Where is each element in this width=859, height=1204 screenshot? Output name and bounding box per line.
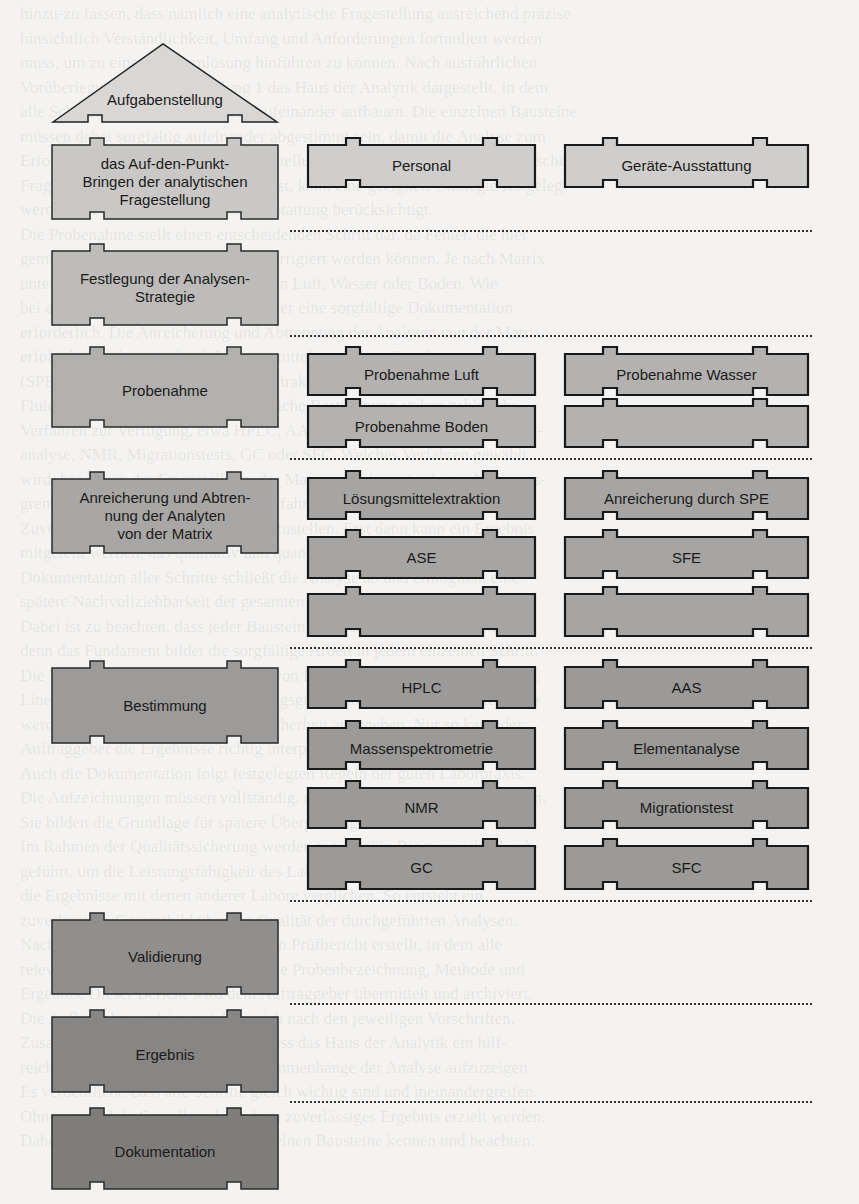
block-label: AAS xyxy=(565,667,808,708)
block-probenahme-boden: Probenahme Boden xyxy=(308,406,535,447)
block-label: Probenahme Boden xyxy=(308,406,535,447)
block-personal: Personal xyxy=(308,145,535,187)
block-enrichment-empty-2 xyxy=(565,594,808,636)
block-label: Validierung xyxy=(52,920,278,994)
block-enrichment-empty-1 xyxy=(308,594,535,636)
block-label: Bestimmung xyxy=(52,668,278,743)
block-ergebnis: Ergebnis xyxy=(52,1017,278,1092)
roof-block-aufgabenstellung: Aufgabenstellung xyxy=(52,43,278,123)
block-label: Probenahme Wasser xyxy=(565,354,808,395)
block-fragestellung: das Auf-den-Punkt- Bringen der analytisc… xyxy=(52,145,278,219)
block-label: Dokumentation xyxy=(52,1115,278,1189)
block-label: NMR xyxy=(308,788,535,828)
block-migrationstest: Migrationstest xyxy=(565,788,808,828)
divider-line xyxy=(290,458,812,460)
divider-line xyxy=(290,1003,812,1005)
block-nmr: NMR xyxy=(308,788,535,828)
block-bestimmung: Bestimmung xyxy=(52,668,278,743)
divider-line xyxy=(290,335,812,337)
block-label: Anreicherung durch SPE xyxy=(565,478,808,519)
block-sfc: SFC xyxy=(565,846,808,889)
divider-line xyxy=(290,1101,812,1103)
divider-line xyxy=(290,230,812,232)
block-label: Migrationstest xyxy=(565,788,808,828)
block-probenahme-luft: Probenahme Luft xyxy=(308,354,535,395)
block-label xyxy=(308,594,535,636)
block-label: GC xyxy=(308,846,535,889)
block-analysen-strategie: Festlegung der Analysen- Strategie xyxy=(52,251,278,325)
block-label: ASE xyxy=(308,537,535,578)
block-probenahme: Probenahme xyxy=(52,354,278,427)
block-ase: ASE xyxy=(308,537,535,578)
block-label: HPLC xyxy=(308,667,535,708)
block-anreicherung: Anreicherung und Abtren- nung der Analyt… xyxy=(52,479,278,553)
block-label: SFE xyxy=(565,537,808,578)
block-loesungsmittelextraktion: Lösungsmittelextraktion xyxy=(308,478,535,519)
divider-line xyxy=(290,647,812,649)
block-label xyxy=(565,406,808,447)
block-label: Ergebnis xyxy=(52,1017,278,1092)
block-label: Lösungsmittelextraktion xyxy=(308,478,535,519)
block-label: Festlegung der Analysen- Strategie xyxy=(52,251,278,325)
block-label: Probenahme xyxy=(52,354,278,427)
block-anreicherung-spe: Anreicherung durch SPE xyxy=(565,478,808,519)
block-probenahme-empty xyxy=(565,406,808,447)
block-probenahme-wasser: Probenahme Wasser xyxy=(565,354,808,395)
block-elementanalyse: Elementanalyse xyxy=(565,728,808,769)
divider-line xyxy=(290,900,812,902)
block-label: das Auf-den-Punkt- Bringen der analytisc… xyxy=(52,145,278,219)
block-geraete-ausstattung: Geräte-Ausstattung xyxy=(565,145,808,187)
block-label: Anreicherung und Abtren- nung der Analyt… xyxy=(52,479,278,553)
block-label: Probenahme Luft xyxy=(308,354,535,395)
roof-label: Aufgabenstellung xyxy=(52,43,278,123)
block-label: SFC xyxy=(565,846,808,889)
block-massenspektrometrie: Massenspektrometrie xyxy=(308,728,535,769)
block-dokumentation: Dokumentation xyxy=(52,1115,278,1189)
block-label xyxy=(565,594,808,636)
block-label: Elementanalyse xyxy=(565,728,808,769)
block-label: Personal xyxy=(308,145,535,187)
block-label: Massenspektrometrie xyxy=(308,728,535,769)
block-aas: AAS xyxy=(565,667,808,708)
block-sfe: SFE xyxy=(565,537,808,578)
block-validierung: Validierung xyxy=(52,920,278,994)
block-label: Geräte-Ausstattung xyxy=(565,145,808,187)
block-hplc: HPLC xyxy=(308,667,535,708)
block-gc: GC xyxy=(308,846,535,889)
